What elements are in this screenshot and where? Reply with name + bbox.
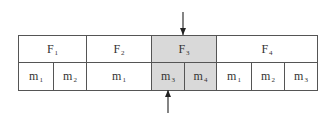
label-name: m: [294, 69, 303, 83]
label-name: F: [47, 42, 54, 56]
member-cell-m3: m3: [284, 62, 318, 91]
label-index: 1: [39, 76, 43, 84]
label-name: F: [178, 42, 185, 56]
label-index: 3: [186, 49, 190, 57]
label-index: 2: [73, 76, 77, 84]
label-index: 1: [122, 76, 126, 84]
label-index: 4: [269, 49, 273, 57]
frame-cell-f2: F2: [86, 35, 152, 63]
label-index: 4: [204, 76, 208, 84]
label-index: 2: [121, 49, 125, 57]
label-index: 2: [271, 76, 275, 84]
arrow-down-icon: [178, 12, 188, 35]
frame-cell-f4: F4: [216, 35, 318, 63]
label-name: m: [261, 69, 270, 83]
member-cell-m2: m2: [53, 62, 87, 91]
member-cell-m3: m3: [151, 62, 185, 91]
label-index: 3: [304, 76, 308, 84]
label-index: 1: [237, 76, 241, 84]
member-cell-m4: m4: [184, 62, 217, 91]
label-name: m: [63, 69, 72, 83]
frame-cell-f1: F1: [18, 35, 87, 63]
label-name: m: [194, 69, 203, 83]
member-cell-m1: m1: [216, 62, 252, 91]
label-index: 3: [171, 76, 175, 84]
arrow-up-icon: [163, 90, 173, 113]
label-name: m: [29, 69, 38, 83]
label-name: F: [113, 42, 120, 56]
frame-cell-f3: F3: [151, 35, 217, 63]
member-cell-m2: m2: [251, 62, 285, 91]
label-name: F: [261, 42, 268, 56]
member-cell-m1: m1: [18, 62, 54, 91]
member-cell-m1: m1: [86, 62, 152, 91]
label-name: m: [112, 69, 121, 83]
label-index: 1: [55, 49, 59, 57]
label-name: m: [227, 69, 236, 83]
label-name: m: [161, 69, 170, 83]
